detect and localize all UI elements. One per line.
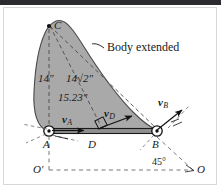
- label-vector-vD: vD: [104, 108, 115, 121]
- label-point-B: B: [152, 139, 159, 150]
- hatch-A-short: [55, 136, 68, 139]
- label-point-C: C: [54, 20, 61, 31]
- label-point-D: D: [88, 139, 96, 150]
- vA-subscript: A: [67, 118, 72, 127]
- vD-subscript: D: [109, 112, 115, 121]
- point-C-dot-marker: [47, 24, 51, 28]
- label-point-O: O: [197, 164, 205, 175]
- label-point-O-prime: O': [33, 164, 43, 175]
- label-dimension-BC: 14√2″: [66, 73, 93, 84]
- arrowhead-O: [185, 165, 194, 172]
- label-vector-vB: vB: [158, 97, 168, 110]
- label-dimension-AC: 14″: [38, 73, 54, 84]
- label-dimension-DC: 15.23″: [58, 92, 87, 103]
- label-vector-vA: vA: [62, 114, 72, 127]
- dash-ray-B-vB-perp: [168, 105, 190, 128]
- pin-A-inner-dot: [47, 129, 50, 132]
- mechanics-figure: C Body extended 14″ 14√2″ 15.23″ vA vD v…: [0, 0, 221, 188]
- figure-drawing: [0, 0, 221, 188]
- hatch-vB-2: [173, 122, 182, 126]
- leader-line-body-extended: [92, 44, 104, 48]
- label-body-extended: Body extended: [107, 41, 179, 53]
- hatch-vB-1: [171, 119, 179, 122]
- label-angle-45: 45°: [152, 157, 166, 167]
- label-point-A: A: [43, 139, 50, 150]
- vB-subscript: B: [163, 101, 168, 110]
